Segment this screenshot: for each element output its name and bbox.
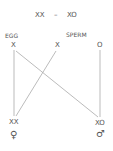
title-xx: XX <box>35 12 45 19</box>
sperm-gamete-o: O <box>97 42 103 49</box>
title-dash: – <box>54 12 58 19</box>
male-symbol-icon: ♂ <box>96 129 105 139</box>
egg-gamete-x: X <box>11 42 16 49</box>
offspring-female-genotype: XX <box>9 119 19 126</box>
offspring-male-genotype: XO <box>95 120 105 127</box>
sperm-label: SPERM <box>66 31 87 38</box>
title-xo: XO <box>67 12 77 19</box>
female-symbol-icon: ♀ <box>10 130 17 140</box>
egg-to-xo-line <box>16 51 98 117</box>
egg-label: EGG <box>5 32 18 39</box>
sperm-x-to-xx-line <box>16 51 56 116</box>
sperm-gamete-x: X <box>55 42 60 49</box>
